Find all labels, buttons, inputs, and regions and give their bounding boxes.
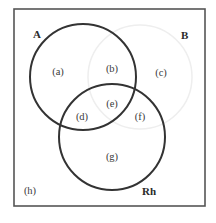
set-label-b: B <box>181 29 189 41</box>
set-label-rh: Rh <box>142 185 156 197</box>
venn-diagram: A B Rh (a) (b) (c) (d) (e) (f) (g) (h) <box>0 0 216 223</box>
region-label-b: (b) <box>106 63 119 75</box>
region-label-a: (a) <box>52 66 64 78</box>
set-label-a: A <box>33 28 41 40</box>
region-label-h: (h) <box>24 185 37 197</box>
region-label-c: (c) <box>155 67 167 79</box>
region-label-e: (e) <box>106 98 118 110</box>
region-label-f: (f) <box>135 111 146 123</box>
region-label-g: (g) <box>106 151 119 163</box>
region-label-d: (d) <box>76 111 89 123</box>
